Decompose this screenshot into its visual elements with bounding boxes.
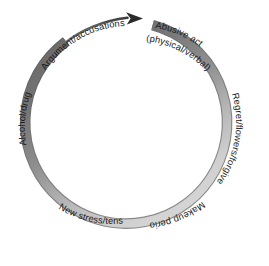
stage-label-argument-accusations: Argument/accusations [39, 18, 125, 72]
cycle-diagram-canvas: Abusive act (physical/verbal) Regret/flo… [0, 0, 269, 266]
cycle-of-violence-diagram: Abusive act (physical/verbal) Regret/flo… [0, 0, 269, 266]
stage-labels-group: Abusive act (physical/verbal) Regret/flo… [0, 0, 244, 231]
stage-label-new-stress-tension: New stress/tension [0, 0, 124, 226]
